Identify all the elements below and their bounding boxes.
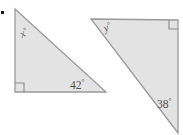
angle-label-42-value: 42 [70, 79, 82, 91]
geometry-figure: x° 42° y° 38° [0, 0, 183, 135]
margin-bullet-icon [1, 11, 4, 14]
figure-canvas: x° 42° y° 38° [0, 0, 183, 135]
angle-label-38-value: 38 [157, 98, 169, 110]
degree-symbol-icon: ° [82, 78, 85, 87]
degree-symbol-icon: ° [169, 97, 172, 106]
